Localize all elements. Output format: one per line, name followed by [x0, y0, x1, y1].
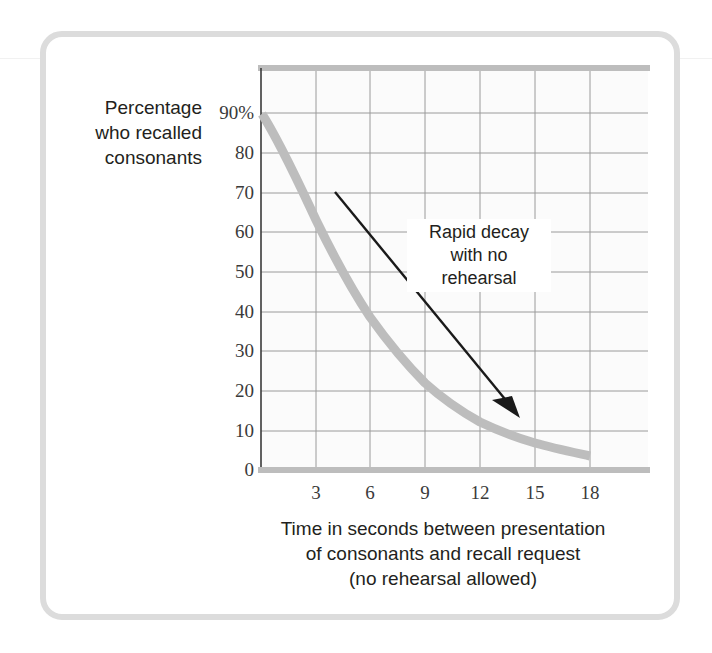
x-axis-title: Time in seconds between presentation of … — [228, 516, 658, 591]
y-tick-label-50: 50 — [202, 261, 254, 283]
x-tick-label-15: 15 — [515, 482, 555, 504]
y-tick-label-40: 40 — [202, 301, 254, 323]
figure-container: Percentage who recalled consonants 90% 8… — [0, 0, 712, 653]
x-tick-label-18: 18 — [570, 482, 610, 504]
y-tick-label-70: 70 — [202, 182, 254, 204]
y-tick-label-20: 20 — [202, 380, 254, 402]
x-tick-label-3: 3 — [296, 482, 336, 504]
chart-annotation: Rapid decay with no rehearsal — [407, 219, 551, 292]
y-tick-label-90: 90% — [202, 102, 254, 124]
chart-area: Percentage who recalled consonants 90% 8… — [0, 0, 712, 653]
y-tick-label-0: 0 — [202, 459, 254, 481]
y-tick-label-30: 30 — [202, 340, 254, 362]
y-tick-label-80: 80 — [202, 142, 254, 164]
y-tick-label-10: 10 — [202, 420, 254, 442]
y-tick-label-60: 60 — [202, 221, 254, 243]
y-axis-title: Percentage who recalled consonants — [46, 95, 202, 170]
x-tick-label-9: 9 — [405, 482, 445, 504]
x-tick-label-6: 6 — [350, 482, 390, 504]
x-tick-label-12: 12 — [460, 482, 500, 504]
